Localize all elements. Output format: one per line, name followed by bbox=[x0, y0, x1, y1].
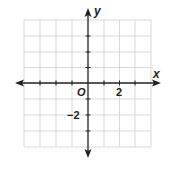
coordinate-plane: y x O 2 −2 bbox=[0, 0, 171, 169]
y-tick-label-neg2: −2 bbox=[67, 109, 80, 121]
x-axis-label: x bbox=[152, 67, 161, 81]
origin-label: O bbox=[77, 86, 86, 98]
y-axis-label: y bbox=[93, 4, 102, 18]
x-tick-label-2: 2 bbox=[116, 86, 122, 98]
